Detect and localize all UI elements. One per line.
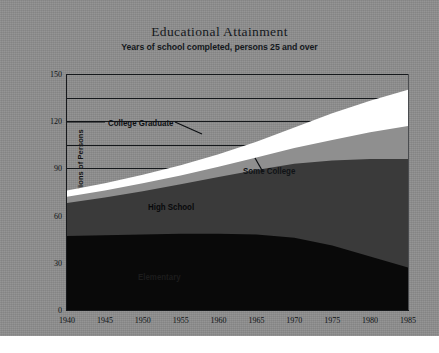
- y-tick-0: 0: [58, 306, 62, 315]
- x-tick-1975: 1975: [324, 316, 340, 325]
- y-tick-150: 150: [50, 70, 62, 79]
- annotation-college-graduate: College Graduate: [108, 118, 173, 128]
- x-tick-1965: 1965: [248, 316, 264, 325]
- x-tick-1955: 1955: [173, 316, 189, 325]
- right-axis-line: [408, 74, 409, 310]
- x-tick-1945: 1945: [97, 316, 113, 325]
- chart-title: Educational Attainment: [0, 24, 439, 40]
- y-tick-120: 120: [50, 117, 62, 126]
- chart-page: Educational Attainment Years of school c…: [0, 0, 439, 353]
- x-tick-1980: 1980: [362, 316, 378, 325]
- chart-subtitle: Years of school completed, persons 25 an…: [18, 41, 422, 52]
- annotation-some-college: Some College: [243, 166, 295, 176]
- y-tick-30: 30: [54, 258, 62, 267]
- annotation-leader-lines: [67, 74, 408, 310]
- annotation-high-school: High School: [148, 202, 194, 212]
- x-tick-1960: 1960: [211, 316, 227, 325]
- x-tick-1985: 1985: [400, 316, 416, 325]
- plot-area: Millions of Persons 0306090120150 194019…: [67, 74, 408, 310]
- x-axis-line: [66, 310, 409, 311]
- x-tick-1950: 1950: [135, 316, 151, 325]
- x-tick-1970: 1970: [286, 316, 302, 325]
- x-tick-1940: 1940: [59, 316, 75, 325]
- y-tick-90: 90: [54, 164, 62, 173]
- annotation-elementary: Elementary: [138, 272, 181, 282]
- leader-college-graduate-right: [175, 122, 202, 134]
- y-tick-60: 60: [54, 211, 62, 220]
